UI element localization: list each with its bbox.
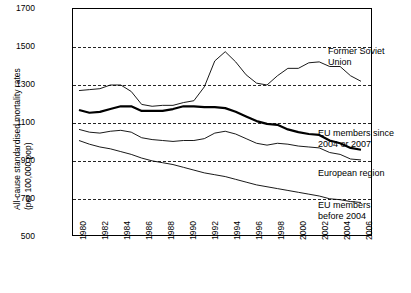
x-tick-2002: 2002 <box>320 221 330 240</box>
annotation-eu-members-before-2004-line1: EU members <box>318 200 371 211</box>
annotation-eu-members-before-2004-line2: before 2004 <box>318 211 371 222</box>
y-tick-500: 500 <box>0 232 35 241</box>
y-tick-1700: 1700 <box>0 4 35 13</box>
y-tick-1300: 1300 <box>0 80 35 89</box>
annotation-european-region-line1: European region <box>318 168 385 179</box>
x-tick-1992: 1992 <box>210 221 220 240</box>
annotation-former-soviet-union-line1: Former Soviet <box>328 46 385 57</box>
annotation-eu-members-before-2004: EU members before 2004 <box>318 200 371 222</box>
y-axis-title-line1: All-cause standardised mortality rates <box>12 68 22 210</box>
x-tick-1982: 1982 <box>100 221 110 240</box>
series-line-0 <box>79 52 361 107</box>
y-tick-1100: 1100 <box>0 118 35 127</box>
x-tick-1998: 1998 <box>276 221 286 240</box>
y-tick-700: 700 <box>0 194 35 203</box>
annotation-former-soviet-union: Former Soviet Union <box>328 46 385 68</box>
annotation-european-region: European region <box>318 168 385 179</box>
y-tick-1500: 1500 <box>0 42 35 51</box>
y-tick-900: 900 <box>0 156 35 165</box>
x-tick-1984: 1984 <box>122 221 132 240</box>
x-tick-2000: 2000 <box>298 221 308 240</box>
annotation-eu-members-since-2004-line2: 2004 or 2007 <box>318 139 394 150</box>
x-tick-2004: 2004 <box>342 221 352 240</box>
x-tick-1988: 1988 <box>166 221 176 240</box>
x-tick-2006: 2006 <box>364 221 374 240</box>
x-tick-1986: 1986 <box>144 221 154 240</box>
chart-figure: All-cause standardised mortality rates (… <box>0 0 411 293</box>
x-tick-1980: 1980 <box>78 221 88 240</box>
x-tick-1994: 1994 <box>232 221 242 240</box>
x-tick-1990: 1990 <box>188 221 198 240</box>
annotation-former-soviet-union-line2: Union <box>328 57 385 68</box>
annotation-eu-members-since-2004-line1: EU members since <box>318 128 394 139</box>
annotation-eu-members-since-2004: EU members since 2004 or 2007 <box>318 128 394 150</box>
x-tick-1996: 1996 <box>254 221 264 240</box>
